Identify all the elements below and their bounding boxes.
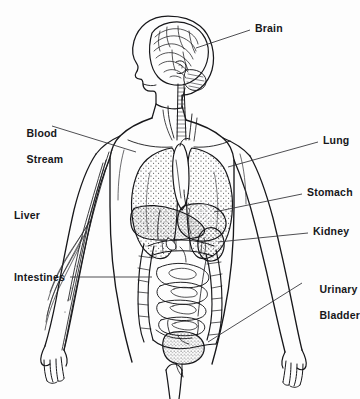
label-blood-stream: Blood Stream (14, 114, 63, 179)
label-urinary-bladder-line-2: Bladder (319, 309, 360, 321)
label-liver: Liver (14, 209, 40, 222)
leader-kidney (218, 233, 308, 242)
human-body-figure (0, 0, 360, 399)
label-intestines: Intestines (14, 271, 65, 284)
leader-lung (228, 142, 318, 167)
label-kidney: Kidney (313, 225, 349, 238)
small-intestine-organ (156, 247, 208, 344)
leader-blood-stream (52, 126, 136, 152)
urinary-bladder-organ (163, 320, 205, 377)
label-urinary-bladder: Urinary Bladder (307, 270, 360, 335)
anatomy-diagram: Brain Blood Stream Lung Stomach Liver Ki… (0, 0, 360, 399)
label-urinary-bladder-line-1: Urinary (319, 283, 357, 295)
label-stomach: Stomach (307, 186, 353, 199)
neck-and-trachea (152, 84, 197, 141)
left-arm (41, 150, 112, 383)
leader-brain (196, 30, 250, 48)
label-lung: Lung (323, 134, 349, 147)
label-blood-stream-line-2: Stream (26, 153, 63, 165)
label-blood-stream-line-1: Blood (26, 127, 57, 139)
label-brain: Brain (255, 22, 283, 35)
right-arm (234, 156, 306, 387)
